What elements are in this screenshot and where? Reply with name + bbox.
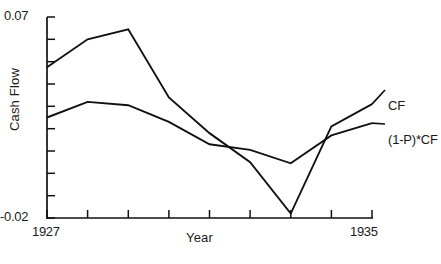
- series-label-cf: CF: [388, 98, 405, 113]
- x-axis-title: Year: [186, 230, 213, 245]
- x-axis-tick-label-start: 1927: [32, 224, 60, 239]
- leader-line-1-p-cf: [372, 123, 385, 124]
- cash-flow-line-chart: 0.07 -0.02 1927 1935 Year Cash Flow CF (…: [0, 0, 441, 264]
- y-axis-title: Cash Flow: [7, 64, 22, 136]
- series-label-1-p-cf: (1-P)*CF: [388, 132, 438, 147]
- x-axis-ticks: [47, 210, 372, 218]
- x-axis-tick-label-end: 1935: [350, 224, 378, 239]
- y-axis-tick-label-max: 0.07: [4, 8, 28, 23]
- leader-line-cf: [372, 90, 385, 104]
- series-path-cf: [47, 29, 372, 213]
- y-axis-tick-label-min: -0.02: [0, 209, 28, 224]
